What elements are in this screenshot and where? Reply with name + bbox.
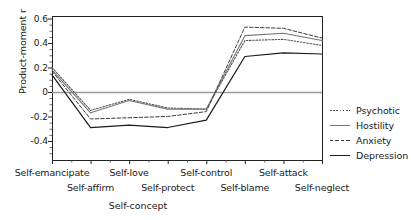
x-axis-tick-label: Self-love — [109, 167, 148, 178]
legend-item-psychotic: Psychotic — [330, 103, 408, 118]
series-line-depression — [52, 53, 322, 128]
legend-item-depression: Depression — [330, 148, 408, 163]
legend-item-label: Hostility — [356, 120, 394, 131]
chart-legend: PsychoticHostilityAnxietyDepression — [330, 103, 408, 163]
x-axis-tick-label: Self-neglect — [295, 182, 349, 193]
legend-item-label: Anxiety — [356, 135, 391, 146]
legend-item-label: Depression — [356, 150, 408, 161]
x-axis-title: Self-concept — [0, 200, 411, 211]
legend-item-label: Psychotic — [356, 105, 400, 116]
legend-item-anxiety: Anxiety — [330, 133, 408, 148]
legend-item-hostility: Hostility — [330, 118, 408, 133]
line-chart-figure: Product-moment r 0.60.40.20-0.2-0.4 Self… — [0, 0, 411, 220]
x-axis-tick-label: Self-affirm — [67, 182, 114, 193]
legend-line-swatch-icon — [330, 155, 350, 156]
x-axis-tick-label: Self-control — [180, 167, 232, 178]
legend-line-swatch-icon — [330, 140, 350, 141]
legend-line-swatch-icon — [330, 125, 350, 126]
x-axis-tick-label: Self-blame — [220, 182, 269, 193]
plot-frame — [53, 17, 323, 161]
legend-line-swatch-icon — [330, 110, 350, 111]
x-axis-tick-label: Self-attack — [259, 167, 308, 178]
series-line-psychotic — [52, 39, 322, 110]
x-axis-tick-label: Self-emancipate — [15, 167, 90, 178]
series-line-hostility — [52, 33, 322, 113]
x-axis-tick-label: Self-protect — [141, 182, 194, 193]
series-line-anxiety — [52, 27, 322, 119]
x-axis-title-text: Self-concept — [109, 200, 168, 211]
